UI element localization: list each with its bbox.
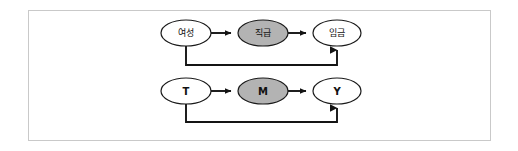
node-t: T: [161, 78, 211, 104]
node-imgeum-label: 임금: [329, 27, 345, 38]
node-y: Y: [313, 78, 361, 104]
node-m: M: [238, 78, 288, 104]
node-imgeum: 임금: [313, 20, 361, 46]
node-t-label: T: [183, 86, 190, 97]
edge-yeoseong-imgeum: [186, 46, 337, 65]
node-jikgeup: 직급: [238, 20, 288, 46]
diagram-canvas: 여성 직급 임금 T: [0, 0, 518, 151]
path-diagram-figure: 여성 직급 임금 T: [0, 0, 518, 151]
row-concrete: 여성 직급 임금: [161, 20, 361, 65]
node-y-label: Y: [332, 86, 341, 97]
node-jikgeup-label: 직급: [255, 28, 271, 38]
node-m-label: M: [258, 86, 268, 97]
node-yeoseong-label: 여성: [178, 27, 194, 38]
node-yeoseong: 여성: [161, 20, 211, 46]
edge-t-y: [186, 104, 337, 122]
row-abstract: T M Y: [161, 78, 361, 122]
